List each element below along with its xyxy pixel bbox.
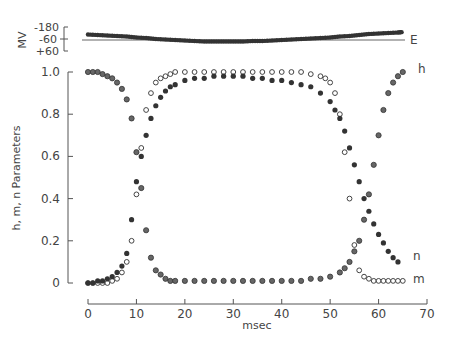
chart: MV -180 -60 +60 E 00.20.40.60.81.0 h, m,… xyxy=(0,0,450,342)
inset-tick-label: +60 xyxy=(36,45,59,58)
inset-mv-axis: MV -180 -60 +60 E xyxy=(16,21,418,58)
reference-line-label: E xyxy=(410,33,418,47)
x-tick-label: 0 xyxy=(84,307,92,321)
x-tick-label: 10 xyxy=(129,307,144,321)
mv-trace xyxy=(86,30,404,44)
y-tick-label: 1.0 xyxy=(41,65,60,79)
x-tick-label: 30 xyxy=(226,307,241,321)
data-series xyxy=(85,69,405,285)
x-tick-label: 20 xyxy=(177,307,192,321)
series-m xyxy=(86,70,406,286)
x-axis: 010203040506070 msec xyxy=(84,299,434,332)
series-label-h: h xyxy=(418,62,426,76)
x-tick-label: 60 xyxy=(371,307,386,321)
inset-ylabel: MV xyxy=(16,31,29,48)
y-tick-label: 0.6 xyxy=(41,149,60,163)
series-label-n: n xyxy=(413,249,421,263)
y-tick-label: 0 xyxy=(52,276,60,290)
y-tick-label: 0.8 xyxy=(41,107,60,121)
x-tick-label: 70 xyxy=(419,307,434,321)
series-labels: hmn xyxy=(413,62,426,286)
x-tick-label: 40 xyxy=(274,307,289,321)
y-tick-label: 0.4 xyxy=(41,192,60,206)
y-tick-label: 0.2 xyxy=(41,234,60,248)
series-label-m: m xyxy=(413,272,425,286)
series-h xyxy=(85,69,405,283)
y-axis-label: h, m, n Parameters xyxy=(10,125,23,230)
x-tick-label: 50 xyxy=(323,307,338,321)
main-y-axis: 00.20.40.60.81.0 h, m, n Parameters xyxy=(10,65,73,290)
x-axis-label: msec xyxy=(242,319,271,332)
